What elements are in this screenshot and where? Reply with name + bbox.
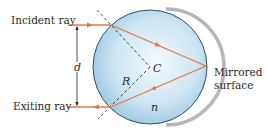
R-label: R [121,75,130,88]
incident-ray-label: Incident ray [11,14,76,26]
n-label: n [151,101,158,114]
C-label: C [153,62,162,75]
exiting-ray-label: Exiting ray [13,100,72,112]
mirrored-surface-label-line2: surface [214,79,253,91]
retroreflector-sphere-diagram: Incident ray Exiting ray d R C n Mirrore… [0,0,268,128]
mirrored-surface-label-line1: Mirrored [214,66,263,78]
d-label: d [74,61,81,74]
